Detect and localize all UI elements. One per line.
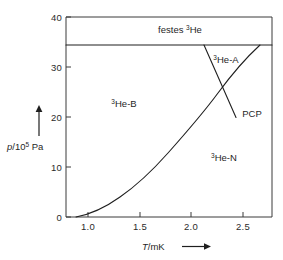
y-axis-title: p/105 Pa — [6, 141, 44, 153]
x-tick-label-1-5: 1.5 — [133, 221, 147, 232]
he3-n-region-label: 3He-N — [211, 152, 237, 164]
he3-n-text: He-N — [215, 152, 237, 163]
y-tick-label-30: 30 — [51, 62, 62, 73]
x-axis-title-group: T/mK — [142, 241, 211, 252]
solid-phase-label-text: festes — [158, 24, 184, 35]
y-axis-title-group: p/105 Pa — [6, 105, 44, 152]
plot-frame — [66, 17, 272, 217]
y-axis-unit: /10 — [12, 141, 25, 152]
y-axis-unit-tail: Pa — [32, 141, 44, 152]
y-axis-ticks — [66, 17, 71, 217]
y-tick-label-0: 0 — [57, 212, 62, 223]
solid-phase-label-element: He — [190, 24, 202, 35]
phase-diagram-plot: 40 30 20 10 0 1.0 1.5 2.0 2.5 festes 3He — [0, 0, 283, 260]
x-tick-label-2-5: 2.5 — [236, 221, 250, 232]
y-tick-label-20: 20 — [51, 112, 62, 123]
x-axis-ticks — [88, 212, 243, 217]
he3-a-region-label: 3He-A — [213, 54, 239, 66]
x-axis-title: T/mK — [142, 241, 165, 252]
solid-phase-label: festes 3He — [158, 24, 202, 36]
x-axis-unit: /mK — [148, 241, 166, 252]
y-axis-arrow-head-icon — [36, 105, 43, 112]
he3-a-text: He-A — [217, 54, 239, 65]
y-axis-tick-labels: 40 30 20 10 0 — [51, 12, 62, 223]
superfluid-transition-curve — [76, 45, 260, 217]
x-axis-tick-labels: 1.0 1.5 2.0 2.5 — [81, 221, 250, 232]
y-tick-label-10: 10 — [51, 162, 62, 173]
x-axis-arrow-head-icon — [204, 243, 211, 250]
y-tick-label-40: 40 — [51, 12, 62, 23]
he3-phase-diagram-figure: 40 30 20 10 0 1.0 1.5 2.0 2.5 festes 3He — [0, 0, 283, 260]
x-tick-label-1-0: 1.0 — [81, 221, 95, 232]
pcp-point-label: PCP — [242, 108, 262, 119]
he3-b-region-label: 3He-B — [111, 98, 136, 110]
x-tick-label-2-0: 2.0 — [184, 221, 198, 232]
he3-b-text: He-B — [115, 98, 137, 109]
